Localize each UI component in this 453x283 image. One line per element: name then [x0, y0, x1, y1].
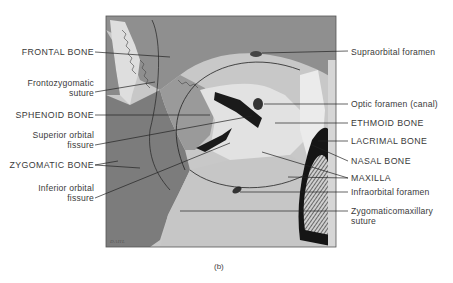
- label-supraorbital-foramen: Supraorbital foramen: [351, 47, 435, 57]
- label-lacrimal-bone: LACRIMAL BONE: [351, 136, 427, 146]
- artist-signature: DAHL: [110, 239, 125, 244]
- label-line: Frontozygomatic: [27, 78, 94, 88]
- label-superior-orbital-fissure: Superior orbital fissure: [33, 130, 94, 150]
- label-nasal-bone: NASAL BONE: [351, 156, 411, 166]
- label-maxilla: MAXILLA: [351, 173, 391, 183]
- label-zygomatic-bone: ZYGOMATIC BONE: [9, 160, 94, 170]
- label-zygomaticomaxillary-suture: Zygomaticomaxillary suture: [351, 206, 433, 226]
- label-line: suture: [351, 216, 433, 226]
- label-infraorbital-foramen: Infraorbital foramen: [351, 187, 430, 197]
- label-sphenoid-bone: SPHENOID BONE: [15, 110, 94, 120]
- label-line: fissure: [38, 193, 94, 203]
- label-line: Superior orbital: [33, 130, 94, 140]
- label-frontozygomatic-suture: Frontozygomatic suture: [27, 78, 94, 98]
- label-line: suture: [27, 88, 94, 98]
- label-line: Inferior orbital: [38, 183, 94, 193]
- label-ethmoid-bone: ETHMOID BONE: [351, 118, 424, 128]
- label-inferior-orbital-fissure: Inferior orbital fissure: [38, 183, 94, 203]
- figure-caption: (b): [214, 262, 224, 271]
- label-optic-foramen: Optic foramen (canal): [351, 99, 438, 109]
- label-line: fissure: [33, 140, 94, 150]
- label-line: Zygomaticomaxillary: [351, 206, 433, 216]
- label-frontal-bone: FRONTAL BONE: [22, 47, 94, 57]
